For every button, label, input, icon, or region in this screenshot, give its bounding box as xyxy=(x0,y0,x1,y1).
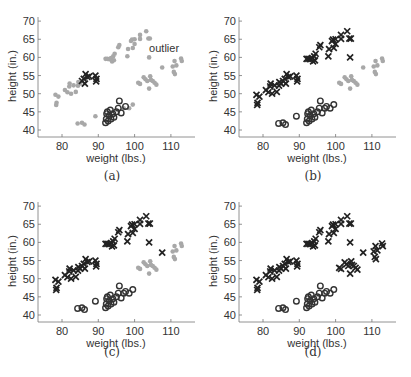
x-marker xyxy=(144,214,149,219)
y-axis-label: height (in.) xyxy=(207,235,219,287)
x-marker xyxy=(355,267,360,272)
y-axis-label: height (in.) xyxy=(6,235,18,287)
unlabeled-point xyxy=(71,83,76,88)
unlabeled-point xyxy=(179,244,184,249)
unlabeled-point xyxy=(172,244,177,249)
x-marker xyxy=(345,214,350,219)
unlabeled-point xyxy=(174,248,179,253)
unlabeled-point xyxy=(132,37,137,42)
y-tick-label: 40 xyxy=(224,309,236,321)
x-tick-label: 100 xyxy=(326,140,344,152)
unlabeled-point xyxy=(374,72,379,77)
unlabeled-point xyxy=(172,59,177,64)
unlabeled-point xyxy=(160,65,165,70)
unlabeled-point xyxy=(126,47,131,52)
unlabeled-point xyxy=(112,58,117,63)
y-tick-label: 50 xyxy=(224,273,236,285)
unlabeled-point xyxy=(375,63,380,68)
unlabeled-point xyxy=(380,59,385,64)
unlabeled-point xyxy=(138,37,143,42)
x-tick-label: 90 xyxy=(92,325,104,337)
caption-d: (d) xyxy=(293,345,333,359)
unlabeled-point xyxy=(147,271,152,276)
unlabeled-point xyxy=(173,72,178,77)
x-marker xyxy=(138,217,143,222)
caption-a: (a) xyxy=(92,169,132,183)
y-tick-label: 55 xyxy=(23,70,35,82)
x-marker xyxy=(339,32,344,37)
y-tick-label: 65 xyxy=(224,33,236,45)
x-marker xyxy=(147,240,152,245)
unlabeled-point xyxy=(93,114,98,119)
x-marker xyxy=(348,240,353,245)
x-marker xyxy=(283,266,288,271)
x-marker xyxy=(361,250,366,255)
caption-b: (b) xyxy=(293,169,333,183)
x-marker xyxy=(82,81,87,86)
x-tick-label: 110 xyxy=(162,140,180,152)
y-tick-label: 55 xyxy=(23,255,35,267)
x-tick-label: 110 xyxy=(363,140,381,152)
unlabeled-point xyxy=(132,42,137,47)
unlabeled-point xyxy=(112,51,117,56)
o-marker xyxy=(331,287,337,293)
o-marker xyxy=(331,102,337,108)
unlabeled-point xyxy=(82,122,87,127)
x-tick-label: 90 xyxy=(293,140,305,152)
o-marker xyxy=(318,283,324,289)
unlabeled-point xyxy=(138,33,143,38)
y-tick-label: 70 xyxy=(23,15,35,27)
unlabeled-point xyxy=(69,91,74,96)
caption-c: (c) xyxy=(92,345,132,359)
x-marker xyxy=(160,250,165,255)
outlier-annotation: outlier xyxy=(149,42,179,54)
x-tick-label: 110 xyxy=(162,325,180,337)
x-tick-label: 90 xyxy=(293,325,305,337)
x-marker xyxy=(348,271,353,276)
unlabeled-point xyxy=(348,86,353,91)
x-tick-label: 80 xyxy=(56,140,68,152)
x-marker xyxy=(73,274,78,279)
unlabeled-point xyxy=(154,82,159,87)
x-marker xyxy=(326,239,331,244)
x-marker xyxy=(82,266,87,271)
x-marker xyxy=(274,89,279,94)
x-marker xyxy=(348,55,353,60)
o-marker xyxy=(318,98,324,104)
unlabeled-point xyxy=(361,65,366,70)
x-marker xyxy=(274,274,279,279)
y-tick-label: 70 xyxy=(23,200,35,212)
scatter-plot-c: 404550556065708090100110weight (lbs.)hei… xyxy=(0,185,205,345)
unlabeled-point xyxy=(67,81,72,86)
x-tick-label: 90 xyxy=(92,140,104,152)
x-marker xyxy=(125,239,130,244)
unlabeled-point xyxy=(173,257,178,262)
y-tick-label: 45 xyxy=(23,291,35,303)
y-tick-label: 40 xyxy=(23,309,35,321)
chart-panel-d: 404550556065708090100110weight (lbs.)hei… xyxy=(201,185,406,373)
unlabeled-point xyxy=(117,43,122,48)
y-tick-label: 45 xyxy=(224,106,236,118)
unlabeled-point xyxy=(144,29,149,34)
y-tick-label: 45 xyxy=(23,106,35,118)
o-marker xyxy=(93,298,99,304)
x-tick-label: 110 xyxy=(363,325,381,337)
chart-panel-b: 404550556065708090100110weight (lbs.)hei… xyxy=(201,0,406,188)
y-tick-label: 50 xyxy=(23,273,35,285)
o-marker xyxy=(117,98,123,104)
x-tick-label: 80 xyxy=(257,325,269,337)
y-tick-label: 45 xyxy=(224,291,236,303)
y-tick-label: 60 xyxy=(23,51,35,63)
chart-panel-a: 404550556065708090100110weight (lbs.)hei… xyxy=(0,0,205,188)
unlabeled-point xyxy=(130,46,135,51)
x-tick-label: 100 xyxy=(125,140,143,152)
unlabeled-point xyxy=(355,82,360,87)
chart-panel-c: 404550556065708090100110weight (lbs.)hei… xyxy=(0,185,205,373)
y-axis-label: height (in.) xyxy=(207,50,219,102)
unlabeled-point xyxy=(73,90,78,95)
y-tick-label: 65 xyxy=(23,33,35,45)
y-tick-label: 65 xyxy=(224,218,236,230)
o-marker xyxy=(294,298,300,304)
y-tick-label: 50 xyxy=(224,88,236,100)
unlabeled-point xyxy=(54,103,59,108)
